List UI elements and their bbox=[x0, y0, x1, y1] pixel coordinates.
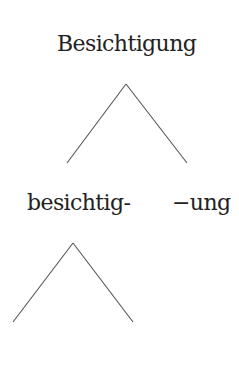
stem-left-edge bbox=[13, 243, 73, 322]
tree-edges bbox=[0, 0, 239, 366]
root-right-edge bbox=[126, 84, 187, 163]
suffix-node-label: −ung bbox=[172, 192, 230, 214]
stem-branch bbox=[13, 243, 133, 322]
stem-node-label: besichtig- bbox=[27, 192, 130, 214]
root-left-edge bbox=[67, 84, 126, 163]
stem-right-edge bbox=[73, 243, 133, 322]
root-branch bbox=[67, 84, 187, 163]
